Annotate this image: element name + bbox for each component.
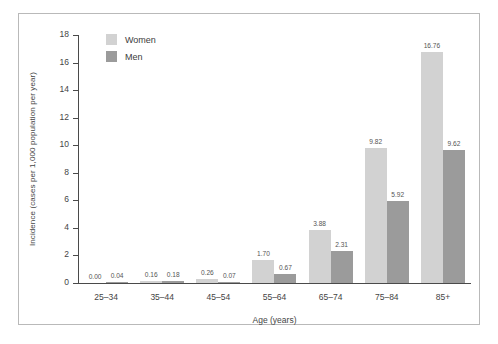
figure-container: 024681012141618 Incidence (cases per 1,0… <box>0 0 498 344</box>
bar-value-label: 5.92 <box>391 191 404 199</box>
bar-value-label: 0.00 <box>89 273 102 281</box>
bar-men[interactable]: 5.92 <box>387 201 409 283</box>
y-tick-label: 8 <box>64 167 69 178</box>
x-axis-category: 25–34 <box>78 292 134 302</box>
x-axis-category: 75–84 <box>359 292 415 302</box>
bar-group: 3.882.31 <box>303 35 359 283</box>
x-axis-title: Age (years) <box>78 315 471 325</box>
bar-value-label: 9.82 <box>369 138 382 146</box>
y-tick-label: 14 <box>60 84 69 95</box>
y-tick-label: 2 <box>64 249 69 260</box>
x-axis-category: 35–44 <box>134 292 190 302</box>
bar-group: 0.260.07 <box>190 35 246 283</box>
bar-group: 16.769.62 <box>415 35 471 283</box>
bar-women[interactable]: 16.76 <box>421 52 443 283</box>
bar-value-label: 0.26 <box>201 269 214 277</box>
bar-value-label: 9.62 <box>447 140 460 148</box>
y-tick-label: 16 <box>60 57 69 68</box>
x-axis-line <box>78 283 471 284</box>
bar-value-label: 0.16 <box>145 271 158 279</box>
x-axis-category: 65–74 <box>303 292 359 302</box>
bar-group: 9.825.92 <box>359 35 415 283</box>
x-axis-category: 85+ <box>415 292 471 302</box>
bar-men[interactable]: 0.67 <box>274 274 296 283</box>
x-axis-category-labels: 25–3435–4445–5455–6465–7475–8485+ <box>78 292 471 302</box>
y-tick-label: 18 <box>60 29 69 40</box>
bar-group: 1.700.67 <box>246 35 302 283</box>
bar-men[interactable]: 2.31 <box>331 251 353 283</box>
y-tick-label: 10 <box>60 139 69 150</box>
bar-value-label: 16.76 <box>424 42 441 50</box>
bar-value-label: 1.70 <box>257 250 270 258</box>
bar-value-label: 0.18 <box>167 271 180 279</box>
bar-groups: 0.000.040.160.180.260.071.700.673.882.31… <box>78 35 471 283</box>
y-tick-label: 6 <box>64 194 69 205</box>
y-tick-label: 4 <box>64 222 69 233</box>
bar-value-label: 0.67 <box>279 264 292 272</box>
bar-men[interactable]: 9.62 <box>443 150 465 283</box>
x-axis-category: 45–54 <box>190 292 246 302</box>
bar-value-label: 2.31 <box>335 241 348 249</box>
bar-value-label: 3.88 <box>313 220 326 228</box>
bar-group: 0.000.04 <box>78 35 134 283</box>
bar-group: 0.160.18 <box>134 35 190 283</box>
bar-women[interactable]: 3.88 <box>309 230 331 283</box>
bar-value-label: 0.07 <box>223 272 236 280</box>
bar-women[interactable]: 9.82 <box>365 148 387 283</box>
y-axis-title: Incidence (cases per 1,000 population pe… <box>26 35 40 283</box>
bar-value-label: 0.04 <box>111 272 124 280</box>
y-tick-label: 12 <box>60 112 69 123</box>
bar-women[interactable]: 1.70 <box>252 260 274 283</box>
y-tick-label: 0 <box>64 277 69 288</box>
x-axis-category: 55–64 <box>246 292 302 302</box>
